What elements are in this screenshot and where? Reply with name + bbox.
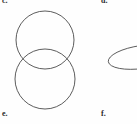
figure-canvas: c. d. e. f. [0, 0, 137, 124]
panel-label-e: e. [2, 110, 8, 118]
lower-circle [15, 49, 75, 109]
panel-label-f: f. [101, 110, 106, 118]
right-ellipse [107, 41, 137, 73]
panel-label-c: c. [2, 0, 8, 5]
upper-circle [16, 11, 74, 69]
panel-label-d: d. [101, 0, 107, 5]
geometry-figure-group [0, 0, 137, 124]
